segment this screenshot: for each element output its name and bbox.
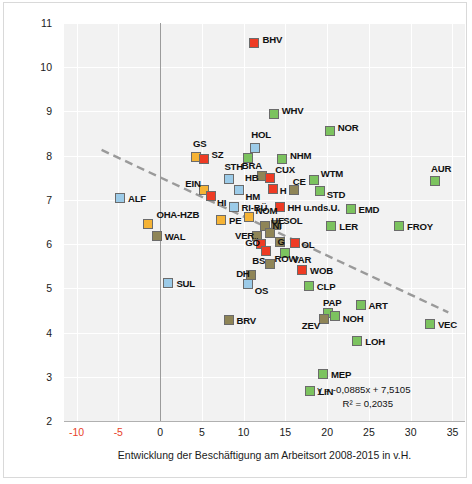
y-axis-tick-label: 5 <box>4 282 52 294</box>
x-axis-tick-label: 10 <box>238 426 250 438</box>
data-point-marker <box>269 109 279 119</box>
data-point-label: BHV <box>262 34 282 45</box>
data-point-marker <box>315 186 325 196</box>
data-point-marker <box>152 231 162 241</box>
x-axis-tick-label: 15 <box>280 426 292 438</box>
data-point-label: NOM <box>255 205 277 216</box>
data-point-label: WHV <box>282 105 304 116</box>
x-axis-tick-label: 25 <box>363 426 375 438</box>
x-axis-tick-label: -10 <box>69 426 84 438</box>
data-point-label: SOL <box>283 215 302 226</box>
data-point-label: OS <box>255 285 268 296</box>
data-point-marker <box>115 193 125 203</box>
data-point-label: NOH <box>343 313 364 324</box>
y-axis-tick-label: 2 <box>4 415 52 427</box>
x-axis-line <box>64 421 465 422</box>
data-point-marker <box>216 215 226 225</box>
data-point-label: SZ <box>212 149 224 160</box>
data-point-marker <box>268 184 278 194</box>
data-point-label: FROY <box>407 221 433 232</box>
data-point-label: ALF <box>128 193 146 204</box>
x-axis-title: Entwicklung der Beschäftigung am Arbeits… <box>64 449 465 461</box>
plot-area: BHVWHVNORHOLGSSZBRANHMSTHHBCUXWTMEINHIHM… <box>64 23 465 421</box>
data-point-label: PAP <box>323 297 341 308</box>
x-axis-tick-label: 5 <box>199 426 205 438</box>
data-point-marker <box>330 311 340 321</box>
data-point-label: BS <box>252 255 265 266</box>
data-point-label: WTM <box>321 168 343 179</box>
y-axis-tick-label: 3 <box>4 371 52 383</box>
data-point-marker <box>224 174 234 184</box>
data-point-label: G <box>278 236 285 247</box>
data-point-label: CUX <box>275 164 295 175</box>
y-axis-tick-label: 11 <box>4 17 52 29</box>
trendline-equation-box: y = -0,0885x + 7,5105 R² = 0,2035 <box>317 383 410 411</box>
data-point-marker <box>297 265 307 275</box>
data-point-label: H <box>280 185 287 196</box>
data-point-label: HI <box>217 197 226 208</box>
data-point-label: HM <box>245 191 260 202</box>
data-point-label: OL <box>302 239 315 250</box>
chart-frame: Arbeitslosenquote (JD) 2015 BHVWHVNORHOL… <box>3 2 467 478</box>
data-point-label: EIN <box>185 178 200 189</box>
data-point-marker <box>325 126 335 136</box>
data-point-marker <box>206 191 216 201</box>
data-point-label: ART <box>369 300 388 311</box>
data-point-label: NI <box>273 220 282 231</box>
x-axis-tick-label: -5 <box>114 426 123 438</box>
data-point-marker <box>265 173 275 183</box>
data-point-label: AUR <box>431 163 451 174</box>
y-axis-tick-label: 9 <box>4 105 52 117</box>
data-point-label: CE <box>293 176 306 187</box>
data-point-marker <box>224 315 234 325</box>
data-point-marker <box>304 281 314 291</box>
data-point-label: HOL <box>251 129 271 140</box>
data-point-marker <box>356 300 366 310</box>
data-point-label: ZEV <box>302 320 320 331</box>
data-point-label: OHA-HZB <box>156 209 199 220</box>
screenshot-root: Arbeitslosenquote (JD) 2015 BHVWHVNORHOL… <box>0 0 472 484</box>
x-axis-tick-label: 35 <box>447 426 459 438</box>
data-point-label: GÖ <box>245 237 260 248</box>
data-point-marker <box>199 154 209 164</box>
data-point-marker <box>326 221 336 231</box>
data-point-marker <box>430 176 440 186</box>
data-point-marker <box>234 185 244 195</box>
data-point-label: CLP <box>317 281 336 292</box>
data-point-marker <box>249 38 259 48</box>
x-axis-tick-label: 20 <box>321 426 333 438</box>
data-point-marker <box>425 319 435 329</box>
y-axis-tick-label: 10 <box>4 61 52 73</box>
data-point-marker <box>346 204 356 214</box>
data-point-label: BRV <box>237 315 256 326</box>
data-point-marker <box>265 259 275 269</box>
data-point-label: SUL <box>176 278 195 289</box>
data-point-label: STD <box>327 189 346 200</box>
y-axis-tick-label: 4 <box>4 327 52 339</box>
data-point-marker <box>305 386 315 396</box>
y-axis-tick-label: 6 <box>4 238 52 250</box>
data-point-label: LER <box>339 221 358 232</box>
trendline-r2: R² = 0,2035 <box>317 397 410 411</box>
data-point-label: GS <box>193 138 206 149</box>
data-point-marker <box>319 314 329 324</box>
data-point-label: HH u.nds.U. <box>288 202 340 213</box>
data-point-label: LOH <box>365 336 385 347</box>
data-point-marker <box>290 238 300 248</box>
data-point-marker <box>277 154 287 164</box>
data-point-label: VEC <box>438 319 457 330</box>
data-point-label: PE <box>229 215 241 226</box>
data-point-marker <box>394 221 404 231</box>
data-point-label: BRA <box>242 160 262 171</box>
data-point-label: EMD <box>359 204 380 215</box>
data-point-marker <box>243 279 253 289</box>
y-axis-tick-label: 8 <box>4 150 52 162</box>
data-point-label: NHM <box>290 150 311 161</box>
data-point-marker <box>352 336 362 346</box>
data-point-marker <box>309 175 319 185</box>
data-point-marker <box>250 143 260 153</box>
data-point-label: STH <box>224 161 243 172</box>
data-point-marker <box>143 219 153 229</box>
data-point-label: ROW <box>275 253 298 264</box>
data-point-marker <box>244 212 254 222</box>
